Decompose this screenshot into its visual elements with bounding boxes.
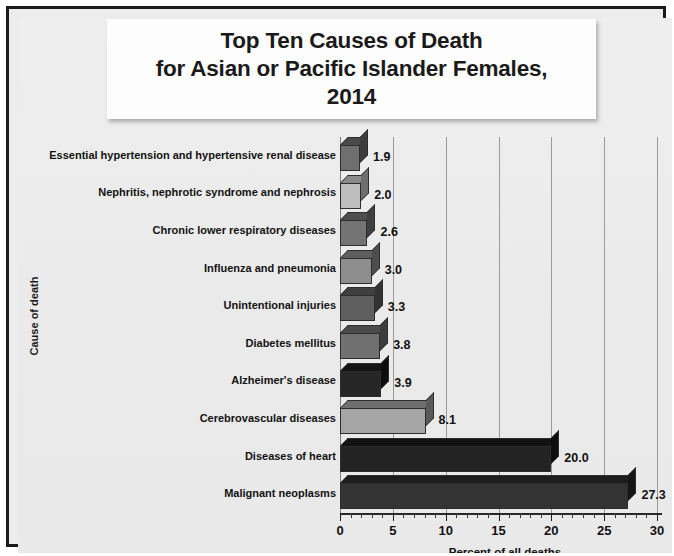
bar-front-face — [340, 371, 381, 397]
x-tick-label: 30 — [650, 523, 664, 538]
x-tick-minor — [361, 513, 362, 518]
bar-value-label: 2.0 — [374, 188, 391, 202]
x-tick-major — [499, 513, 500, 521]
bar-value-label: 8.1 — [439, 413, 456, 427]
x-tick-major — [657, 513, 658, 521]
bar-front-face — [340, 145, 360, 171]
bar-value-label: 20.0 — [564, 451, 588, 465]
bar-value-label: 27.3 — [641, 488, 665, 502]
chart-title-box: Top Ten Causes of Death for Asian or Pac… — [107, 19, 596, 119]
bar-row[interactable]: 20.0 — [340, 438, 662, 474]
bar[interactable] — [340, 333, 380, 359]
bar-side-face — [375, 279, 383, 313]
x-tick-minor — [646, 513, 647, 518]
bar-row[interactable]: 2.6 — [340, 212, 662, 248]
bar-value-label: 3.3 — [388, 300, 405, 314]
bar-value-label: 3.8 — [393, 338, 410, 352]
bar-row[interactable]: 2.0 — [340, 175, 662, 211]
bar-side-face — [426, 392, 434, 426]
bar-value-label: 2.6 — [380, 225, 397, 239]
screenshot-root: Top Ten Causes of Death for Asian or Pac… — [0, 0, 674, 556]
x-tick-major — [551, 513, 552, 521]
category-label: Malignant neoplasms — [18, 487, 336, 499]
x-tick-label: 0 — [336, 523, 343, 538]
x-tick-minor — [636, 513, 637, 518]
bar-front-face — [340, 295, 375, 321]
x-tick-minor — [351, 513, 352, 518]
x-tick-label: 10 — [438, 523, 452, 538]
bar[interactable] — [340, 371, 381, 397]
x-tick-major — [604, 513, 605, 521]
bar[interactable] — [340, 483, 628, 509]
bar-side-face — [381, 355, 389, 389]
bar-row[interactable]: 3.0 — [340, 250, 662, 286]
chart-canvas: Top Ten Causes of Death for Asian or Pac… — [18, 18, 672, 553]
x-tick-minor — [562, 513, 563, 518]
bar[interactable] — [340, 145, 360, 171]
category-label: Cerebrovascular diseases — [18, 412, 336, 424]
category-label: Diabetes mellitus — [18, 337, 336, 349]
bar-side-face — [628, 467, 636, 501]
bar-top-face — [340, 400, 434, 408]
bar[interactable] — [340, 258, 372, 284]
bar-side-face — [380, 317, 388, 351]
bar-value-label: 3.9 — [394, 376, 411, 390]
x-tick-label: 20 — [544, 523, 558, 538]
bar-row[interactable]: 1.9 — [340, 137, 662, 173]
x-tick-label: 15 — [491, 523, 505, 538]
x-tick-minor — [467, 513, 468, 518]
category-label: Unintentional injuries — [18, 299, 336, 311]
figure-frame: Top Ten Causes of Death for Asian or Pac… — [6, 6, 666, 547]
bar-front-face — [340, 183, 361, 209]
category-label: Influenza and pneumonia — [18, 262, 336, 274]
bar-row[interactable]: 3.9 — [340, 363, 662, 399]
plot-area: 1.92.02.63.03.33.83.98.120.027.3 — [340, 137, 662, 513]
x-tick-minor — [435, 513, 436, 518]
category-label: Nephritis, nephrotic syndrome and nephro… — [18, 186, 336, 198]
bar-front-face — [340, 483, 628, 509]
x-tick-minor — [615, 513, 616, 518]
bar-row[interactable]: 27.3 — [340, 475, 662, 511]
bar-front-face — [340, 446, 551, 472]
bar-row[interactable]: 8.1 — [340, 400, 662, 436]
bar-top-face — [340, 475, 636, 483]
x-tick-minor — [572, 513, 573, 518]
x-tick-minor — [594, 513, 595, 518]
x-tick-minor — [477, 513, 478, 518]
x-tick-label: 5 — [389, 523, 396, 538]
bar-top-face — [340, 438, 559, 446]
bar-side-face — [551, 430, 559, 464]
x-tick-minor — [425, 513, 426, 518]
x-tick-minor — [625, 513, 626, 518]
x-tick-minor — [541, 513, 542, 518]
chart-title-line-1: Top Ten Causes of Death — [156, 27, 548, 55]
category-label: Chronic lower respiratory diseases — [18, 224, 336, 236]
bar[interactable] — [340, 446, 551, 472]
x-tick-label: 25 — [597, 523, 611, 538]
category-label: Diseases of heart — [18, 450, 336, 462]
x-tick-major — [340, 513, 341, 521]
chart-title: Top Ten Causes of Death for Asian or Pac… — [150, 27, 554, 111]
bar-value-label: 3.0 — [385, 263, 402, 277]
category-label-column: Essential hypertension and hypertensive … — [18, 137, 336, 513]
x-tick-major — [393, 513, 394, 521]
bar[interactable] — [340, 408, 426, 434]
x-tick-minor — [520, 513, 521, 518]
bar[interactable] — [340, 183, 361, 209]
x-tick-minor — [530, 513, 531, 518]
bar-row[interactable]: 3.3 — [340, 287, 662, 323]
bar[interactable] — [340, 220, 367, 246]
x-axis-title: Percent of all deaths — [340, 546, 670, 553]
bar-side-face — [360, 129, 368, 163]
x-tick-minor — [509, 513, 510, 518]
bar-front-face — [340, 408, 426, 434]
x-tick-minor — [414, 513, 415, 518]
category-label: Essential hypertension and hypertensive … — [18, 149, 336, 161]
x-tick-minor — [403, 513, 404, 518]
chart-title-line-2: for Asian or Pacific Islander Females, — [156, 55, 548, 83]
chart-title-line-3: 2014 — [156, 83, 548, 111]
x-tick-minor — [456, 513, 457, 518]
x-tick-minor — [372, 513, 373, 518]
bar[interactable] — [340, 295, 375, 321]
bar-front-face — [340, 333, 380, 359]
